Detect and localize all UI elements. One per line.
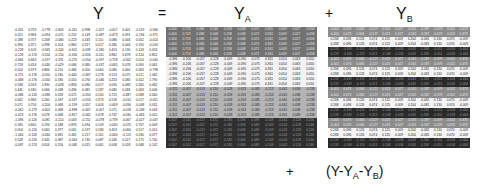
- matrix-cell: -0.051: [431, 143, 444, 148]
- matrix-y: -0.2610.759-0.778-0.803-0.2610.998-1.057…: [12, 28, 160, 148]
- matrix-cell: -0.042: [276, 143, 290, 148]
- matrix-cell: -0.148: [380, 143, 393, 148]
- equals-sign: =: [158, 6, 166, 20]
- matrix-cell: -0.174: [25, 143, 38, 148]
- matrix-cell: -0.046: [66, 143, 79, 148]
- matrix-cell: 0.048: [133, 143, 146, 148]
- matrix-cell: 0.268: [418, 143, 431, 148]
- matrix-cell: 0.096: [235, 143, 249, 148]
- matrix-cell: 0.015: [79, 143, 92, 148]
- matrix-cell: 0.246: [303, 143, 317, 148]
- matrix-cell: -0.169: [341, 143, 354, 148]
- matrix-cell: -0.036: [393, 143, 406, 148]
- matrix-cell: 0.142: [147, 143, 160, 148]
- residual-mid: -Y: [359, 163, 373, 179]
- residual-open: (Y-Y: [326, 163, 353, 179]
- matrix-yb: -0.4010.0730.066-0.1270.0230.027-0.161-0…: [328, 27, 470, 148]
- label-yb-subscript: B: [407, 14, 413, 24]
- matrix-cell: -0.017: [193, 143, 207, 148]
- residual-close: ): [379, 163, 384, 179]
- label-y: Y: [93, 6, 104, 22]
- matrix-cell: 0.133: [328, 143, 341, 148]
- matrix-cell: 0.008: [106, 143, 119, 148]
- label-ya-base: Y: [234, 5, 245, 22]
- matrix-cell: 0.043: [405, 143, 418, 148]
- matrix-cell: 0.072: [207, 143, 221, 148]
- matrix-cell: 0.156: [52, 143, 65, 148]
- label-ya-subscript: A: [245, 14, 251, 24]
- matrix-cell: 0.061: [93, 143, 106, 148]
- matrix-cell: 0.018: [120, 143, 133, 148]
- matrix-cell: -0.509: [262, 143, 276, 148]
- label-yb-base: Y: [396, 5, 407, 22]
- plus-sign-top: +: [325, 6, 333, 20]
- matrix-cell: 0.089: [248, 143, 262, 148]
- matrix-cell: -0.087: [12, 143, 25, 148]
- matrix-cell: 0.016: [39, 143, 52, 148]
- matrix-ya: 0.4000.7130.0860.0460.2580.0480.0710.361…: [166, 27, 317, 148]
- matrix-cell: -0.128: [290, 143, 304, 148]
- label-ya: YA: [234, 6, 251, 24]
- plus-sign-bottom: +: [286, 165, 294, 178]
- matrix-cell: -0.501: [180, 143, 194, 148]
- matrix-cell: -0.181: [221, 143, 235, 148]
- matrix-cell: -0.464: [457, 143, 470, 148]
- label-residual: (Y-YA-YB): [326, 164, 383, 181]
- matrix-cell: -0.018: [444, 143, 457, 148]
- matrix-cell: 0.307: [166, 143, 180, 148]
- matrix-cell: 0.053: [367, 143, 380, 148]
- label-yb: YB: [396, 6, 413, 24]
- matrix-cell: -0.192: [354, 143, 367, 148]
